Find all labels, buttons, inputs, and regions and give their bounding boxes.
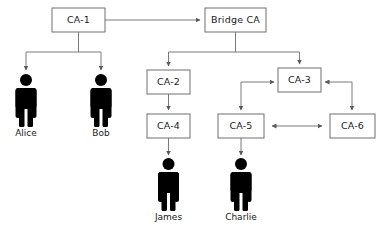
bridge-ca-label: Bridge CA xyxy=(211,14,260,25)
person-alice-label: Alice xyxy=(15,128,37,138)
node-ca-5[interactable]: CA-5 xyxy=(218,114,264,138)
person-icon xyxy=(158,158,179,211)
ca-6-label: CA-6 xyxy=(341,120,364,131)
person-bob-label: Bob xyxy=(92,128,110,138)
node-ca-1[interactable]: CA-1 xyxy=(52,8,105,32)
node-ca-3[interactable]: CA-3 xyxy=(278,68,321,92)
node-ca-6[interactable]: CA-6 xyxy=(330,114,375,138)
node-ca-2[interactable]: CA-2 xyxy=(147,70,190,94)
person-james-label: James xyxy=(154,212,182,222)
person-icon xyxy=(91,74,112,127)
bridge-ca-diagram: CA-1 Bridge CA CA-2 CA-3 CA-4 CA-5 CA-6 xyxy=(0,0,382,246)
node-bridge-ca[interactable]: Bridge CA xyxy=(205,8,266,32)
person-charlie[interactable]: Charlie xyxy=(225,158,257,222)
ca-2-label: CA-2 xyxy=(157,76,180,87)
ca-5-label: CA-5 xyxy=(229,120,252,131)
person-bob[interactable]: Bob xyxy=(91,74,112,138)
diagram-canvas: CA-1 Bridge CA CA-2 CA-3 CA-4 CA-5 CA-6 xyxy=(0,0,382,246)
ca-3-label: CA-3 xyxy=(288,74,311,85)
person-icon xyxy=(16,74,37,127)
person-charlie-label: Charlie xyxy=(225,212,257,222)
person-alice[interactable]: Alice xyxy=(15,74,37,138)
person-icon xyxy=(231,158,252,211)
person-james[interactable]: James xyxy=(154,158,182,222)
ca-4-label: CA-4 xyxy=(157,120,180,131)
node-ca-4[interactable]: CA-4 xyxy=(147,114,190,138)
ca-1-label: CA-1 xyxy=(67,14,90,25)
